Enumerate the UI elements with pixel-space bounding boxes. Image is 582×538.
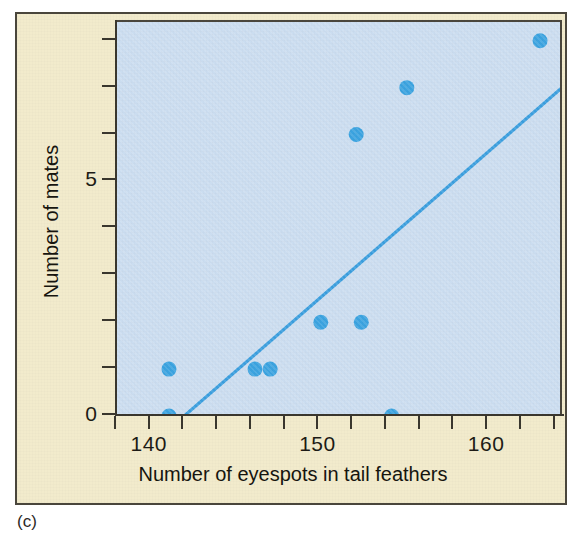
x-axis-tick (451, 416, 453, 429)
data-points-group (161, 33, 547, 414)
plot-area (115, 20, 562, 414)
y-axis-tick (102, 319, 115, 321)
y-axis-tick (102, 178, 115, 180)
data-point (349, 127, 364, 142)
x-axis-tick (181, 416, 183, 429)
x-axis-tick-label: 140 (130, 432, 167, 456)
data-point (533, 33, 548, 48)
y-axis-tick (102, 413, 115, 415)
plot-svg (115, 22, 562, 414)
data-point (399, 80, 414, 95)
x-axis-tick (384, 416, 386, 429)
y-axis-tick (102, 366, 115, 368)
x-axis-tick (249, 416, 251, 429)
y-axis-line (115, 20, 117, 416)
x-axis-tick (114, 416, 116, 429)
data-point (161, 362, 176, 377)
x-axis-tick (283, 416, 285, 429)
data-point (313, 315, 328, 330)
data-point (354, 315, 369, 330)
x-axis-tick (316, 416, 318, 429)
figure-frame: 140150160 05 Number of eyespots in tail … (15, 12, 567, 505)
y-axis-tick (102, 272, 115, 274)
x-axis-tick (553, 416, 555, 429)
x-axis-tick-label: 160 (468, 432, 505, 456)
data-point (248, 362, 263, 377)
y-axis-tick (102, 38, 115, 40)
x-axis-tick (418, 416, 420, 429)
y-axis-tick-label: 0 (73, 402, 97, 426)
trend-line (184, 88, 562, 414)
y-axis-title: Number of mates (40, 102, 63, 342)
x-axis-tick (215, 416, 217, 429)
y-axis-tick (102, 85, 115, 87)
y-axis-tick (102, 132, 115, 134)
y-axis-tick (102, 225, 115, 227)
x-axis-tick (148, 416, 150, 429)
x-axis-title: Number of eyespots in tail feathers (17, 463, 569, 486)
x-axis-tick-label: 150 (299, 432, 336, 456)
y-axis-tick-label: 5 (73, 167, 97, 191)
regression-line (184, 88, 562, 414)
figure-caption: (c) (17, 512, 37, 532)
data-point (263, 362, 278, 377)
x-axis-tick (350, 416, 352, 429)
x-axis-tick (485, 416, 487, 429)
x-axis-tick (519, 416, 521, 429)
